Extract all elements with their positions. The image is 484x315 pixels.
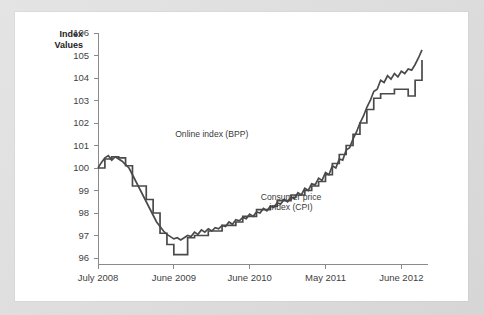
x-tick-label: June 2010 xyxy=(227,272,271,283)
y-tick-label: 100 xyxy=(73,162,89,173)
y-axis-title-line2: Values xyxy=(54,40,83,50)
x-tick-label: July 2008 xyxy=(78,272,119,283)
line-chart: Index Values 969798991001011021031041051… xyxy=(15,12,468,301)
y-tick-label: 106 xyxy=(73,27,89,38)
y-axis-ticks: 96979899100101102103104105106 xyxy=(73,27,98,263)
y-tick-label: 96 xyxy=(78,252,89,263)
x-axis-ticks: July 2008June 2009June 2010May 2011June … xyxy=(78,264,424,283)
y-tick-label: 104 xyxy=(73,72,89,83)
y-tick-label: 105 xyxy=(73,50,89,61)
y-tick-label: 98 xyxy=(78,207,89,218)
chart-figure: Index Values 969798991001011021031041051… xyxy=(15,12,468,301)
y-tick-label: 101 xyxy=(73,140,89,151)
y-tick-label: 97 xyxy=(78,230,89,241)
series-annotation-cpi: Consumer price xyxy=(261,192,322,202)
x-tick-label: June 2009 xyxy=(152,272,196,283)
chart-card: Index Values 969798991001011021031041051… xyxy=(15,12,468,301)
x-tick-label: June 2012 xyxy=(379,272,423,283)
page-background: Index Values 969798991001011021031041051… xyxy=(0,0,484,315)
y-tick-label: 103 xyxy=(73,95,89,106)
series-line-cpi xyxy=(98,60,422,255)
series-annotation-cpi: index (CPI) xyxy=(270,202,313,212)
y-tick-label: 99 xyxy=(78,185,89,196)
series-annotations: Online index (BPP)Consumer priceindex (C… xyxy=(175,129,321,212)
data-series-group xyxy=(98,50,422,255)
y-tick-label: 102 xyxy=(73,117,89,128)
x-tick-label: May 2011 xyxy=(305,272,346,283)
series-annotation-bpp: Online index (BPP) xyxy=(175,129,248,139)
series-line-bpp xyxy=(98,50,422,240)
